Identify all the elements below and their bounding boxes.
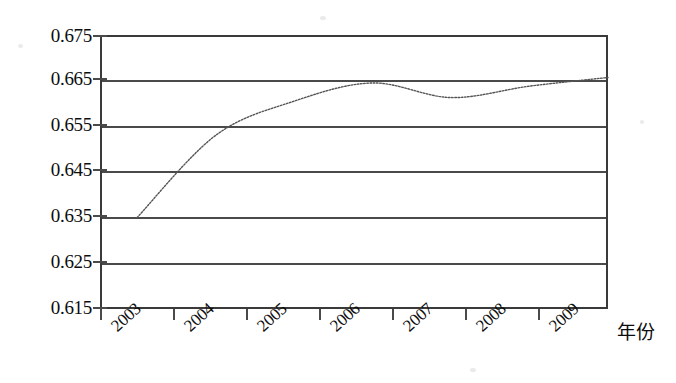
plot-area	[100, 35, 608, 309]
x-tick-mark-2005	[246, 309, 248, 320]
y-tick-label-2: 0.655	[6, 115, 92, 134]
line-chart: 0.675 0.665 0.655 0.645 0.635 0.625 0.61…	[0, 0, 676, 383]
y-tick-label-0: 0.675	[6, 26, 92, 45]
gridline-0.645	[102, 171, 606, 173]
y-tick-mark-0.675	[93, 35, 107, 37]
x-tick-mark-2003	[100, 309, 102, 320]
scan-speck	[320, 16, 326, 20]
gridline-0.635	[102, 217, 606, 219]
gridline-0.665	[102, 80, 606, 82]
y-axis-labels: 0.675 0.665 0.655 0.645 0.635 0.625 0.61…	[0, 0, 92, 383]
x-tick-mark-2006	[319, 309, 321, 320]
y-tick-mark-0.625	[93, 261, 107, 263]
y-tick-label-5: 0.625	[6, 252, 92, 271]
x-tick-mark-2009	[538, 309, 540, 320]
y-tick-label-3: 0.645	[6, 160, 92, 179]
y-tick-mark-0.635	[93, 215, 107, 217]
y-tick-label-1: 0.665	[6, 69, 92, 88]
y-tick-mark-0.665	[93, 78, 107, 80]
y-tick-mark-0.645	[93, 169, 107, 171]
y-tick-label-6: 0.615	[6, 298, 92, 317]
y-tick-mark-0.655	[93, 124, 107, 126]
x-axis-title: 年份	[617, 322, 655, 342]
scan-speck	[470, 368, 476, 372]
gridline-0.655	[102, 126, 606, 128]
x-tick-mark-2007	[392, 309, 394, 320]
y-tick-label-4: 0.635	[6, 206, 92, 225]
x-tick-mark-2004	[173, 309, 175, 320]
x-tick-mark-2008	[465, 309, 467, 320]
scan-speck	[640, 120, 644, 124]
gridline-0.625	[102, 263, 606, 265]
